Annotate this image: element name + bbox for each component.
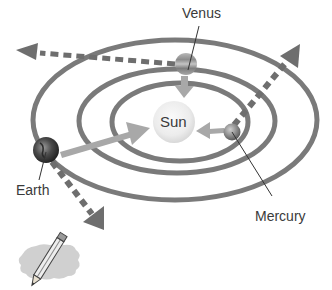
mercury-gravity-arrow (196, 122, 224, 139)
diagram-canvas (0, 0, 332, 290)
pencil-on-note-icon (19, 232, 80, 287)
venus-label: Venus (182, 5, 221, 21)
solar-system-diagram: Sun Venus Earth Mercury (0, 0, 332, 290)
sun-label: Sun (160, 113, 187, 130)
venus-gravity-arrow (175, 76, 194, 98)
venus-planet (175, 53, 197, 75)
mercury-label: Mercury (255, 208, 306, 224)
earth-planet (33, 137, 59, 163)
earth-label: Earth (16, 182, 49, 198)
earth-velocity-arrow (52, 162, 104, 230)
